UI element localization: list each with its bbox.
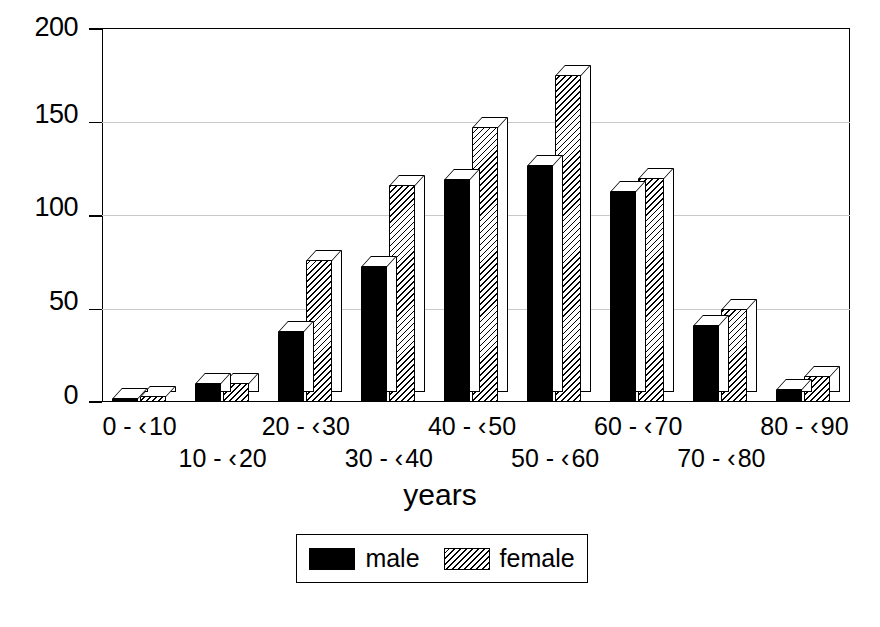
- bar-group: [684, 28, 767, 402]
- y-tick-label-150: 150: [0, 101, 78, 128]
- bar-male: [693, 325, 719, 402]
- bars-layer: [102, 28, 850, 402]
- x-axis-label-2: 20 - ‹ 30: [246, 414, 366, 439]
- bar-group: [268, 28, 351, 402]
- bar-side-face: [304, 321, 314, 392]
- y-tick-mark-50: [89, 309, 102, 311]
- y-tick-label-200: 200: [0, 14, 78, 41]
- y-axis-labels: 200 150 100 50 0: [0, 0, 78, 430]
- bar-male: [527, 165, 553, 402]
- bar-group: [351, 28, 434, 402]
- x-axis-label-4: 40 - ‹ 50: [412, 414, 532, 439]
- bar-male: [195, 383, 221, 402]
- bar-male: [278, 331, 304, 402]
- legend-swatch-female-icon: [444, 548, 490, 570]
- plot-area: [102, 28, 850, 402]
- bar-male: [610, 191, 636, 402]
- bar-front-face: [527, 165, 553, 402]
- bar-side-face: [747, 299, 757, 393]
- bar-side-face: [332, 250, 342, 392]
- bar-chart-figure: 200 150 100 50 0 0 - ‹ 1010 - ‹ 2020 - ‹…: [0, 0, 880, 627]
- x-axis-label-1: 10 - ‹ 20: [163, 446, 283, 471]
- x-axis-label-8: 80 - ‹ 90: [744, 414, 864, 439]
- x-axis-category-labels: 0 - ‹ 1010 - ‹ 2020 - ‹ 3030 - ‹ 4040 - …: [0, 408, 880, 474]
- bar-side-face: [581, 65, 591, 392]
- legend-label-female: female: [500, 546, 575, 571]
- bar-side-face: [387, 256, 397, 393]
- x-axis-label-7: 70 - ‹ 80: [661, 446, 781, 471]
- y-tick-mark-0: [89, 401, 102, 403]
- bar-male: [361, 266, 387, 403]
- bar-group: [518, 28, 601, 402]
- bar-front-face: [693, 325, 719, 402]
- bar-side-face: [498, 117, 508, 392]
- bar-side-face: [719, 315, 729, 392]
- y-tick-label-100: 100: [0, 194, 78, 221]
- bar-front-face: [610, 191, 636, 402]
- bar-front-face: [195, 383, 221, 402]
- legend-item-female: female: [444, 546, 575, 571]
- bar-male: [776, 389, 802, 402]
- bar-side-face: [553, 155, 563, 392]
- bar-front-face: [444, 179, 470, 402]
- legend-swatch-male-icon: [309, 548, 355, 570]
- bar-side-face: [470, 169, 480, 392]
- bar-group: [102, 28, 185, 402]
- y-tick-label-0: 0: [0, 382, 78, 409]
- y-tick-label-50: 50: [0, 288, 78, 315]
- bar-male: [444, 179, 470, 402]
- legend-item-male: male: [309, 546, 419, 571]
- y-tick-mark-150: [89, 122, 102, 124]
- bar-front-face: [361, 266, 387, 403]
- x-axis-title: years: [0, 478, 880, 512]
- x-axis-label-6: 60 - ‹ 70: [578, 414, 698, 439]
- x-axis-label-5: 50 - ‹ 60: [495, 446, 615, 471]
- x-axis-label-3: 30 - ‹ 40: [329, 446, 449, 471]
- bar-male: [112, 398, 138, 402]
- bar-female: [140, 396, 166, 402]
- bar-side-face: [415, 175, 425, 392]
- bar-side-face: [636, 181, 646, 392]
- bar-group: [434, 28, 517, 402]
- legend-label-male: male: [365, 546, 419, 571]
- bar-side-face: [664, 168, 674, 392]
- legend-box: male female: [296, 534, 588, 583]
- bar-front-face: [278, 331, 304, 402]
- bar-front-face: [776, 389, 802, 402]
- bar-front-face: [140, 396, 166, 402]
- bar-group: [185, 28, 268, 402]
- y-tick-mark-200: [89, 28, 102, 30]
- x-axis-label-0: 0 - ‹ 10: [80, 414, 200, 439]
- bar-group: [601, 28, 684, 402]
- y-tick-mark-100: [89, 215, 102, 217]
- bar-group: [767, 28, 850, 402]
